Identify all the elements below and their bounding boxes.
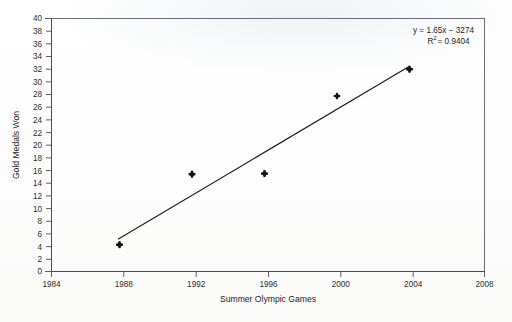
y-tick-label: 8 [37, 217, 42, 226]
y-tick-label: 6 [37, 230, 42, 239]
y-tick-label: 14 [33, 179, 43, 188]
x-axis-tick-labels: 1984 1988 1992 1996 2000 2004 2008 [42, 280, 494, 289]
data-point-marker [334, 93, 340, 99]
y-tick-label: 24 [33, 116, 43, 125]
y-tick-label: 10 [33, 205, 43, 214]
x-tick-label: 2000 [332, 280, 351, 289]
x-tick-label: 1996 [259, 280, 278, 289]
y-tick-label: 2 [37, 255, 42, 264]
regression-annotation: y = 1.65x − 3274 R 2 = 0.9404 [413, 26, 474, 46]
x-axis-ticks [52, 272, 485, 278]
regression-equation: y = 1.65x − 3274 [413, 26, 474, 35]
y-tick-label: 36 [33, 40, 43, 49]
x-tick-label: 1988 [115, 280, 134, 289]
y-tick-label: 26 [33, 103, 43, 112]
data-point-marker [261, 170, 268, 177]
x-tick-label: 2008 [475, 280, 494, 289]
y-tick-label: 34 [33, 52, 43, 61]
y-axis-tick-labels: 40 38 36 34 32 30 28 26 24 22 20 18 16 1… [33, 14, 43, 276]
chart-figure: 40 38 36 34 32 30 28 26 24 22 20 18 16 1… [0, 0, 512, 322]
plot-frame [51, 18, 485, 272]
x-tick-label: 1992 [187, 280, 206, 289]
y-tick-label: 0 [37, 267, 42, 276]
r-squared-value: = 0.9404 [438, 37, 471, 46]
y-tick-label: 18 [33, 154, 43, 163]
y-tick-label: 20 [33, 141, 43, 150]
y-axis-ticks [45, 19, 51, 272]
data-point-marker [116, 241, 123, 248]
y-tick-label: 32 [33, 65, 43, 74]
y-tick-label: 16 [33, 167, 43, 176]
r-squared-exponent: 2 [434, 35, 437, 41]
scatter-plot-svg: 40 38 36 34 32 30 28 26 24 22 20 18 16 1… [0, 0, 512, 322]
y-tick-label: 40 [33, 14, 43, 23]
y-tick-label: 30 [33, 78, 43, 87]
y-tick-label: 38 [33, 27, 43, 36]
x-tick-label: 2004 [404, 280, 423, 289]
data-point-marker [189, 171, 196, 178]
x-axis-title: Summer Olympic Games [220, 294, 316, 304]
trendline [118, 67, 409, 240]
y-tick-label: 28 [33, 90, 43, 99]
data-point-marker [406, 66, 413, 73]
y-tick-label: 22 [33, 129, 43, 138]
y-tick-label: 4 [37, 243, 42, 252]
y-axis-title: Gold Medals Won [11, 111, 21, 179]
x-tick-label: 1984 [42, 280, 61, 289]
data-points [116, 66, 413, 249]
y-tick-label: 12 [33, 192, 43, 201]
